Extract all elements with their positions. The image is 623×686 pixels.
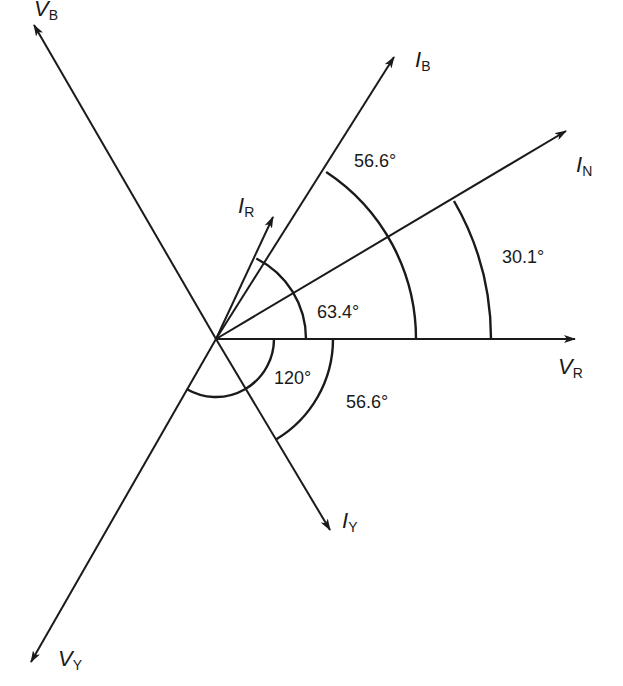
label-in: IN	[576, 152, 592, 179]
arc-30-1	[454, 201, 491, 339]
arc-63-4	[256, 259, 306, 340]
label-vy: VY	[58, 646, 83, 673]
label-iy: IY	[342, 508, 358, 535]
label-vb: VB	[34, 0, 58, 23]
phasor-diagram: VB IB IN IR VR IY VY 56.6° 30.1° 63.4° 1…	[0, 0, 623, 686]
label-ib: IB	[415, 47, 430, 74]
angle-label-63-4: 63.4°	[317, 302, 359, 322]
angle-label-56-6-lower: 56.6°	[346, 392, 388, 412]
angle-label-56-6-upper: 56.6°	[354, 151, 396, 171]
label-vr: VR	[558, 354, 583, 381]
phasor-iy	[216, 339, 330, 530]
angle-label-120: 120°	[274, 368, 311, 388]
phasor-lines	[31, 25, 575, 662]
phasor-ir	[216, 217, 273, 339]
label-ir: IR	[238, 193, 254, 220]
angle-label-30-1: 30.1°	[502, 247, 544, 267]
phasor-vy	[31, 339, 216, 662]
arc-56-6-lower	[276, 339, 333, 440]
phasor-vb	[34, 25, 216, 339]
